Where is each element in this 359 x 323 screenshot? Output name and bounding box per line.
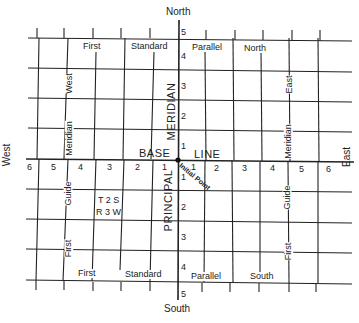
range-number: 2 [214,164,219,173]
direction-south: South [164,304,190,314]
range-number: 5 [51,163,56,172]
guide-east-lower-guide: Guide [283,185,292,209]
direction-east: East [342,147,352,167]
range-number: 1 [191,163,196,172]
base-line-label: BASE [139,148,170,159]
guide-west-upper-meridian: Meridian [65,121,74,156]
parallel-south-parallel: Parallel [191,272,221,281]
range-number: 4 [270,164,275,173]
guide-east-upper-meridian: Meridian [284,124,293,159]
parallel-north-north: North [244,44,266,53]
direction-west: West [2,144,12,167]
guide-west-lower-guide: Guide [64,181,73,205]
parallel-north-standard: Standard [131,42,168,51]
line-label: LINE [194,149,220,160]
base-line [26,159,354,162]
township-line [28,98,352,102]
township-number: 3 [181,82,186,91]
township-label-line1: T 2 S [98,196,119,205]
township-line [28,128,352,132]
township-number: 1 [181,142,186,151]
first-standard-parallel-north [28,38,352,41]
range-number: 6 [27,163,32,172]
township-line [26,249,352,253]
direction-north: North [166,7,190,17]
range-number: 2 [135,163,140,172]
township-number: 2 [181,112,186,121]
township-number: 3 [181,233,186,242]
guide-west-lower-first: First [64,240,73,258]
range-number: 1 [162,163,167,172]
parallel-south-standard: Standard [125,270,162,279]
township-line [28,68,352,72]
first-standard-parallel-south [26,280,352,284]
township-number: 2 [181,203,186,212]
range-number: 3 [107,163,112,172]
township-number: 4 [181,263,186,272]
guide-east-lower-first: First [284,243,293,261]
parallel-north-parallel: Parallel [192,43,222,52]
parallel-north-first: First [83,42,101,51]
range-number: 6 [326,165,331,174]
range-number: 4 [78,163,83,172]
township-line [26,189,352,192]
parallel-south-first: First [78,269,96,278]
township-line [26,219,352,223]
township-number: 5 [181,28,186,37]
township-label-line2: R 3 W [96,208,121,217]
principal-label: PRINCIPAL [163,170,174,232]
guide-west-upper-west: West [65,73,74,93]
township-number: 1 [181,173,186,182]
guide-east-upper-east: East [285,75,294,93]
township-number: 4 [181,52,186,61]
initial-point-marker [175,157,180,162]
township-number: 5 [181,290,186,299]
range-number: 3 [242,164,247,173]
meridian-label: MERIDIAN [166,83,177,141]
range-number: 5 [299,165,304,174]
parallel-south-south: South [250,272,274,281]
